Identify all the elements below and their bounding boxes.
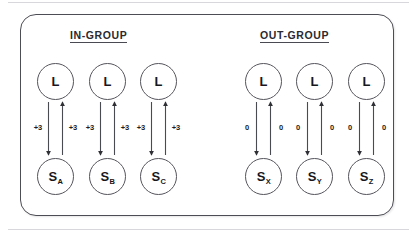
edge-pair-col-2	[101, 102, 115, 155]
arrow-layer	[21, 15, 395, 217]
leader-node-b-label: L	[104, 75, 112, 88]
edge-weight-up-col-2: +3	[118, 123, 132, 132]
edge-pair-col-6	[360, 102, 374, 155]
edge-weight-up-col-6: 0	[377, 123, 391, 132]
subject-node-c-label: SC	[151, 170, 165, 183]
edge-pair-col-3	[152, 102, 166, 155]
leader-node-x[interactable]: L	[245, 63, 282, 100]
edge-pair-col-5	[308, 102, 322, 155]
edge-weight-down-col-1: +3	[31, 123, 45, 132]
diagram-frame: IN-GROUP OUT-GROUP	[20, 14, 394, 216]
leader-node-y-label: L	[311, 75, 319, 88]
edge-weight-down-col-5: 0	[291, 123, 305, 132]
edge-pair-col-4	[257, 102, 271, 155]
leader-node-z[interactable]: L	[348, 63, 385, 100]
subject-node-b[interactable]: SB	[89, 158, 126, 195]
edge-weight-down-col-6: 0	[343, 123, 357, 132]
leader-node-a-label: L	[52, 75, 60, 88]
page-rule-top	[8, 2, 409, 3]
edge-pair-col-1	[49, 102, 63, 155]
subject-node-b-label: SB	[100, 170, 114, 183]
edge-weight-up-col-4: 0	[274, 123, 288, 132]
leader-node-y[interactable]: L	[296, 63, 333, 100]
page-rule-bottom	[8, 229, 409, 230]
leader-node-x-label: L	[260, 75, 268, 88]
subject-node-z-label: SZ	[360, 170, 373, 183]
subject-node-c[interactable]: SC	[140, 158, 177, 195]
leader-node-c-label: L	[155, 75, 163, 88]
leader-node-a[interactable]: L	[37, 63, 74, 100]
subject-node-x-label: SX	[257, 170, 271, 183]
subject-node-x[interactable]: SX	[245, 158, 282, 195]
subject-node-z[interactable]: SZ	[348, 158, 385, 195]
subject-node-a-label: SA	[48, 170, 62, 183]
leader-node-b[interactable]: L	[89, 63, 126, 100]
edge-weight-down-col-4: 0	[240, 123, 254, 132]
edge-weight-up-col-3: +3	[169, 123, 183, 132]
edge-weight-down-col-2: +3	[83, 123, 97, 132]
subject-node-y-label: SY	[308, 170, 322, 183]
subject-node-a[interactable]: SA	[37, 158, 74, 195]
figure-root: IN-GROUP OUT-GROUP	[0, 0, 417, 237]
edge-weight-up-col-1: +3	[66, 123, 80, 132]
edge-weight-up-col-5: 0	[325, 123, 339, 132]
edge-weight-down-col-3: +3	[134, 123, 148, 132]
subject-node-y[interactable]: SY	[296, 158, 333, 195]
leader-node-c[interactable]: L	[140, 63, 177, 100]
leader-node-z-label: L	[363, 75, 371, 88]
